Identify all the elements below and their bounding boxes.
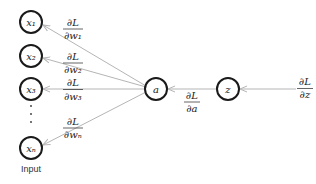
grad-w3-den: ∂w₃ — [64, 91, 82, 102]
grad-w2-num: ∂L — [67, 51, 79, 62]
node-x2-label: x₂ — [26, 51, 36, 62]
grad-z-num: ∂L — [299, 76, 311, 87]
node-xn: xₙ — [20, 137, 42, 159]
node-a: a — [145, 78, 167, 100]
grad-wn-den: ∂wₙ — [64, 129, 82, 140]
diagram-canvas: x₁ x₂ x₃ xₙ ∂L ∂w₁ ∂L ∂w₂ ∂L ∂w₃ ∂L ∂wₙ — [0, 0, 316, 184]
node-x3-label: x₃ — [26, 84, 36, 95]
grad-w2: ∂L ∂w₂ — [63, 51, 83, 75]
grad-wn: ∂L ∂wₙ — [63, 116, 83, 140]
node-z: z — [217, 78, 239, 100]
grad-a-den: ∂a — [186, 103, 197, 114]
grad-a-num: ∂L — [186, 90, 198, 101]
ellipsis — [30, 105, 32, 123]
grad-w3: ∂L ∂w₃ — [63, 77, 83, 102]
grad-w1-num: ∂L — [67, 17, 79, 28]
grad-w1-den: ∂w₁ — [64, 30, 82, 41]
grad-w2-den: ∂w₂ — [64, 64, 82, 75]
grad-z: ∂L ∂z — [297, 76, 313, 100]
grad-w3-num: ∂L — [67, 77, 79, 88]
edge-a-x2 — [43, 58, 146, 87]
grad-wn-num: ∂L — [67, 116, 79, 127]
node-x2: x₂ — [20, 45, 42, 67]
node-a-label: a — [153, 84, 159, 95]
grad-z-den: ∂z — [300, 89, 311, 100]
grad-a: ∂L ∂a — [184, 90, 200, 114]
node-x1: x₁ — [20, 11, 42, 33]
edge-a-x1 — [43, 25, 146, 86]
node-x1-label: x₁ — [26, 17, 36, 28]
edge-a-xn — [43, 92, 146, 145]
node-x3: x₃ — [20, 78, 42, 100]
node-xn-label: xₙ — [26, 143, 36, 154]
node-z-label: z — [224, 84, 231, 95]
grad-w1: ∂L ∂w₁ — [63, 17, 83, 41]
input-caption: Input — [21, 164, 42, 174]
